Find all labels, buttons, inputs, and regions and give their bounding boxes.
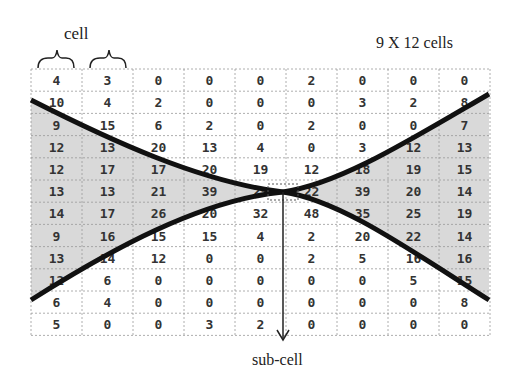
grid-cell-value: 0 (257, 295, 265, 310)
cell-brace-2 (90, 50, 126, 68)
grid-cell-value: 6 (155, 118, 163, 133)
grid-cell-value: 22 (406, 229, 422, 244)
grid-cell-value: 17 (100, 206, 116, 221)
grid-cell-value: 32 (253, 206, 269, 221)
grid-cell-value: 12 (304, 162, 320, 177)
grid-cell-value: 0 (308, 295, 316, 310)
grid-cell-value: 0 (410, 317, 418, 332)
grid-cell-value: 0 (359, 317, 367, 332)
grid-cell-value: 20 (151, 140, 167, 155)
grid-cell-value: 25 (406, 206, 422, 221)
grid-cell-value: 5 (359, 251, 367, 266)
grid-cell-value: 19 (253, 162, 269, 177)
grid-cell-value: 39 (202, 184, 218, 199)
grid-cell-value: 7 (461, 118, 469, 133)
grid-cell-value: 0 (410, 73, 418, 88)
grid-cell-value: 21 (151, 184, 167, 199)
grid-cell-value: 0 (104, 317, 112, 332)
grid-cell-value: 6 (53, 295, 61, 310)
grid-cell-value: 48 (304, 206, 320, 221)
grid-cell-value: 0 (155, 73, 163, 88)
grid-cell-value: 19 (406, 162, 422, 177)
grid-cell-value: 0 (257, 273, 265, 288)
grid-cell-value: 0 (257, 251, 265, 266)
grid-cell-value: 0 (308, 317, 316, 332)
grid-cell-value: 39 (355, 184, 371, 199)
grid-cell-value: 4 (257, 229, 265, 244)
grid-cell-value: 0 (206, 95, 214, 110)
grid-cell-value: 2 (206, 118, 214, 133)
grid-cell-value: 12 (49, 140, 65, 155)
grid-cell-value: 14 (457, 229, 473, 244)
grid-cell-value: 2 (308, 73, 316, 88)
grid-cell-value: 0 (359, 295, 367, 310)
grid-cell-value: 0 (206, 273, 214, 288)
grid-cell-value: 13 (202, 140, 218, 155)
grid-cell-value: 0 (257, 95, 265, 110)
grid-cell-value: 0 (257, 118, 265, 133)
grid-cell-value: 3 (104, 73, 112, 88)
grid-cell-value: 0 (308, 95, 316, 110)
grid-cell-value: 8 (461, 295, 469, 310)
grid-cell-value: 0 (257, 73, 265, 88)
grid-cell-value: 17 (151, 162, 167, 177)
grid-cell-value: 0 (206, 251, 214, 266)
grid-cell-value: 19 (457, 206, 473, 221)
grid-cell-value: 4 (104, 295, 112, 310)
grid-cell-value: 14 (49, 206, 65, 221)
grid-cell-value: 0 (206, 73, 214, 88)
grid-cell-value: 2 (308, 251, 316, 266)
grid-cell-value: 4 (104, 95, 112, 110)
grid-cell-value: 2 (308, 229, 316, 244)
grid-cell-value: 20 (355, 229, 371, 244)
grid-cell-value: 20 (406, 184, 422, 199)
grid-cell-value: 13 (49, 251, 65, 266)
grid-cell-value: 13 (49, 184, 65, 199)
cell-brace-1 (38, 50, 74, 68)
grid-cell-value: 0 (410, 295, 418, 310)
grid-cell-value: 3 (359, 140, 367, 155)
grid-cell-value: 12 (151, 251, 167, 266)
grid-cell-value: 5 (53, 317, 61, 332)
grid-diagram: 4300020001042000328915620200712132013403… (0, 0, 514, 383)
grid-cell-value: 3 (359, 95, 367, 110)
grid-cell-value: 0 (155, 295, 163, 310)
grid-cell-value: 9 (53, 118, 61, 133)
grid-cell-value: 0 (359, 273, 367, 288)
grid-cell-value: 16 (100, 229, 116, 244)
grid-cell-value: 2 (410, 95, 418, 110)
grid-cell-value: 0 (461, 73, 469, 88)
grid-cell-value: 0 (410, 118, 418, 133)
grid-cell-value: 4 (257, 140, 265, 155)
grid-cell-value: 0 (155, 317, 163, 332)
grid-cell-value: 13 (457, 140, 473, 155)
grid-cell-value: 0 (359, 118, 367, 133)
grid-cell-value: 13 (100, 184, 116, 199)
grid-cell-value: 0 (461, 317, 469, 332)
grid-cell-value: 0 (359, 73, 367, 88)
grid-cell-value: 2 (308, 118, 316, 133)
grid-cell-value: 3 (206, 317, 214, 332)
grid-cell-value: 16 (457, 251, 473, 266)
grid-cell-value: 0 (155, 273, 163, 288)
grid-cell-value: 0 (206, 295, 214, 310)
grid-cell-value: 12 (49, 162, 65, 177)
grid-cell-value: 4 (53, 73, 61, 88)
grid-cell-value: 5 (410, 273, 418, 288)
grid-cell-value: 15 (100, 118, 116, 133)
grid-cell-value: 0 (308, 140, 316, 155)
grid-cell-value: 26 (151, 206, 167, 221)
grid-cell-value: 6 (104, 273, 112, 288)
grid-cell-value: 15 (457, 162, 473, 177)
grid-cell-value: 0 (308, 273, 316, 288)
grid-cell-value: 2 (257, 317, 265, 332)
grid-cell-value: 9 (53, 229, 61, 244)
grid-cell-value: 17 (100, 162, 116, 177)
grid-cell-value: 15 (202, 229, 218, 244)
grid-cell-value: 2 (155, 95, 163, 110)
grid-cell-value: 14 (457, 184, 473, 199)
